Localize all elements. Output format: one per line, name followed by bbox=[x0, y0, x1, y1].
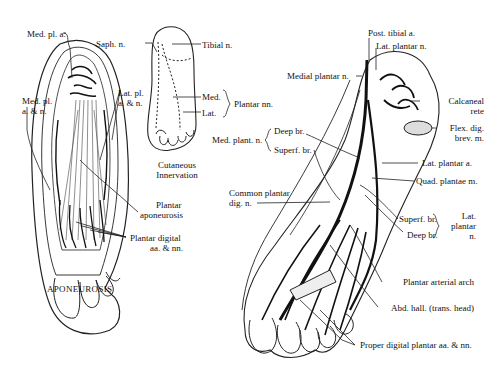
cutaneous-foot-drawing bbox=[148, 27, 196, 151]
label-proper-digital: Proper digital plantar aa. & nn. bbox=[360, 340, 472, 350]
label-lat: Lat. bbox=[202, 108, 216, 118]
label-plantar-aponeurosis-line2: aponeurosis bbox=[140, 210, 183, 220]
label-med-pl-a: Med. pl. a. bbox=[27, 29, 66, 39]
cutaneous-leader-lines bbox=[145, 43, 230, 117]
label-lat-plantar-n: Lat. plantar n. bbox=[376, 41, 426, 51]
label-flex-dig-line1: Flex. dig. bbox=[440, 123, 484, 133]
label-abd-hall: Abd. hall. (trans. head) bbox=[391, 303, 474, 313]
label-med-plant-n: Med. plant. n. bbox=[212, 135, 262, 145]
panel-title-cutaneous-line1: Cutaneous bbox=[152, 160, 202, 170]
label-quad-plantae: Quad. plantae m. bbox=[416, 176, 477, 186]
label-lat-superf-br: Superf. br. bbox=[399, 214, 437, 224]
label-common-plantar-line2: dig. n. bbox=[229, 198, 252, 208]
label-plantar-digital-line2: aa. & nn. bbox=[150, 243, 183, 253]
label-plantar-arterial-arch: Plantar arterial arch bbox=[403, 277, 474, 287]
label-med-deep-br: Deep br. bbox=[274, 126, 305, 136]
label-calcaneal-rete-line2: rete bbox=[440, 106, 484, 116]
anatomy-figure: Med. pl. a. Med. pl. a. & n. Lat. pl. a.… bbox=[0, 0, 501, 376]
label-medial-plantar-n: Medial plantar n. bbox=[287, 71, 349, 81]
label-saph-n: Saph. n. bbox=[96, 39, 125, 49]
label-lat-plantar-group-line2: plantar bbox=[444, 221, 476, 231]
label-lat-pl-an-line2: a. & n. bbox=[118, 98, 143, 108]
label-plantar-digital-line1: Plantar digital bbox=[130, 233, 181, 243]
label-lat-plantar-group-line1: Lat. bbox=[444, 211, 476, 221]
label-calcaneal-rete-line1: Calcaneal bbox=[440, 96, 484, 106]
label-lat-pl-an-line1: Lat. pl. bbox=[118, 88, 144, 98]
label-plantar-aponeurosis-line1: Plantar bbox=[156, 200, 182, 210]
label-common-plantar-line1: Common plantar bbox=[229, 188, 290, 198]
label-lat-deep-br: Deep br. bbox=[407, 230, 438, 240]
label-lat-plantar-group-line3: n. bbox=[444, 231, 476, 241]
label-tibial-n: Tibial n. bbox=[202, 40, 232, 50]
label-med-pl-an-line2: a. & n. bbox=[22, 106, 47, 116]
label-flex-dig-line2: brev. m. bbox=[440, 133, 484, 143]
label-post-tibial-a: Post. tibial a. bbox=[368, 28, 415, 38]
label-med-pl-an-line1: Med. pl. bbox=[22, 96, 52, 106]
label-lat-plantar-a: Lat. plantar a. bbox=[422, 158, 472, 168]
panel-title-cutaneous-line2: Innervation bbox=[150, 170, 204, 180]
label-plantar-nn: Plantar nn. bbox=[234, 99, 273, 109]
panel-title-aponeurosis: APONEUROSIS bbox=[47, 284, 112, 294]
label-med-superf-br: Superf. br. bbox=[274, 145, 312, 155]
label-med: Med. bbox=[202, 92, 221, 102]
